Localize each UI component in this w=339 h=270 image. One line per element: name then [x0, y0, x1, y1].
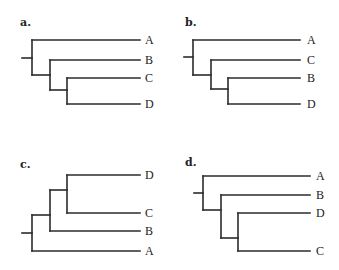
tip-label: B	[145, 53, 153, 67]
tip-label: C	[145, 71, 153, 85]
tip-label: C	[316, 244, 324, 258]
tip-label: B	[307, 71, 315, 85]
tip-label: A	[145, 244, 154, 258]
tip-label: D	[316, 206, 325, 220]
phylogenetic-trees-figure: a. A B C D b. A C B D c.	[0, 0, 339, 270]
tree-panel-a: a. A B C D	[20, 16, 154, 111]
tree-panel-d: d. A B D C	[185, 156, 325, 258]
tip-label: C	[307, 53, 315, 67]
panel-label-d: d.	[185, 156, 197, 169]
tip-label: C	[145, 206, 153, 220]
tip-label: D	[145, 97, 154, 111]
panel-label-a: a.	[20, 16, 31, 29]
tip-label: B	[145, 224, 153, 238]
tip-label: B	[316, 188, 324, 202]
tree-panel-b: b. A C B D	[184, 16, 316, 111]
tip-label: A	[307, 33, 316, 47]
panel-label-b: b.	[185, 16, 197, 29]
tree-panel-c: c. D C B A	[20, 158, 154, 258]
tip-label: A	[316, 169, 325, 183]
panel-label-c: c.	[20, 158, 31, 171]
tip-label: D	[307, 97, 316, 111]
tip-label: A	[145, 33, 154, 47]
tip-label: D	[145, 168, 154, 182]
